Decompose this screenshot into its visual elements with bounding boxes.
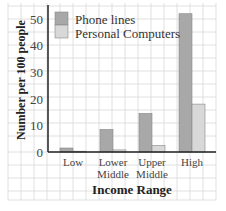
- bar-lowermiddle-phone: [100, 129, 113, 152]
- x-tick-labels: Low Lower Middle Upper Middle High: [63, 156, 204, 180]
- legend-label-pc: Personal Computers: [75, 26, 180, 41]
- x-tick-upper-middle: Middle: [136, 168, 168, 180]
- bar-chart: 0 10 20 30 40 50 Number per 100 people L…: [0, 0, 226, 211]
- bar-uppermiddle-pc: [152, 145, 165, 152]
- y-tick-0: 0: [37, 145, 44, 160]
- y-tick-labels: 0 10 20 30 40 50: [30, 12, 43, 160]
- bar-high-pc: [192, 104, 205, 152]
- legend: Phone lines Personal Computers: [55, 12, 180, 41]
- chart-container: 0 10 20 30 40 50 Number per 100 people L…: [0, 0, 226, 211]
- x-axis-label: Income Range: [92, 182, 172, 197]
- legend-label-phone: Phone lines: [75, 12, 135, 27]
- y-tick-20: 20: [30, 92, 43, 107]
- y-axis-label: Number per 100 people: [14, 19, 28, 140]
- x-tick-low: Low: [63, 156, 83, 168]
- y-tick-50: 50: [30, 12, 43, 27]
- x-tick-upper: Upper: [138, 156, 166, 168]
- y-tick-40: 40: [30, 38, 43, 53]
- bar-high-phone: [179, 14, 192, 152]
- x-tick-lower: Lower: [99, 156, 128, 168]
- legend-swatch-pc: [55, 25, 68, 38]
- y-tick-30: 30: [30, 65, 43, 80]
- x-tick-lower-middle: Middle: [97, 168, 129, 180]
- bar-uppermiddle-phone: [139, 113, 152, 152]
- y-tick-10: 10: [30, 118, 43, 133]
- legend-swatch-phone: [55, 12, 68, 25]
- x-tick-high: High: [181, 156, 204, 168]
